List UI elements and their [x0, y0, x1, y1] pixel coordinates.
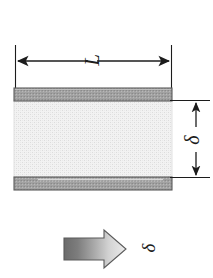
figure-diagram: L δ δ	[0, 0, 213, 278]
flow-arrow-shape	[64, 230, 126, 268]
length-dimension-label: L	[79, 47, 105, 73]
gap-dimension-label: δ	[179, 127, 205, 153]
fluid-layer	[14, 100, 172, 178]
channel-body	[14, 88, 172, 190]
flow-direction-arrow	[64, 230, 126, 268]
flow-arrow-label: δ	[135, 234, 161, 262]
